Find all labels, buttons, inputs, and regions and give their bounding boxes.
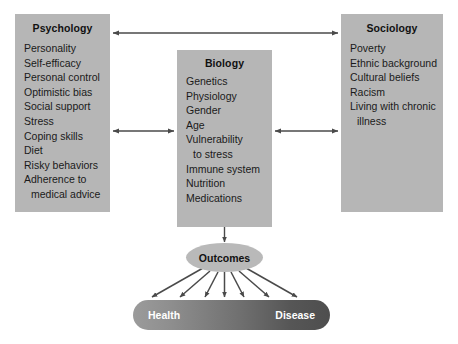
list-item: Adherence to bbox=[24, 172, 106, 187]
list-item: Self-efficacy bbox=[24, 56, 106, 71]
panel-sociology-list: Poverty Ethnic background Cultural belie… bbox=[350, 41, 439, 129]
list-item: Physiology bbox=[186, 89, 268, 104]
list-item: Racism bbox=[350, 85, 439, 100]
list-item: Optimistic bias bbox=[24, 85, 106, 100]
list-item: Living with chronic bbox=[350, 99, 439, 114]
list-item: Personality bbox=[24, 41, 106, 56]
arrow-fan-outcomes-continuum bbox=[152, 268, 297, 297]
list-item-continuation: illness bbox=[350, 114, 439, 129]
list-item: Diet bbox=[24, 143, 106, 158]
panel-sociology: Sociology Poverty Ethnic background Cult… bbox=[341, 14, 443, 212]
list-item: Age bbox=[186, 118, 268, 133]
list-item: Personal control bbox=[24, 70, 106, 85]
list-item-continuation: to stress bbox=[186, 147, 268, 162]
list-item: Risky behaviors bbox=[24, 158, 106, 173]
outcomes-node: Outcomes bbox=[186, 243, 263, 272]
continuum-label-disease: Disease bbox=[275, 309, 315, 321]
outcomes-label: Outcomes bbox=[199, 252, 250, 264]
panel-psychology-list: Personality Self-efficacy Personal contr… bbox=[24, 41, 106, 202]
list-item: Coping skills bbox=[24, 129, 106, 144]
list-item: Genetics bbox=[186, 74, 268, 89]
panel-psychology: Psychology Personality Self-efficacy Per… bbox=[15, 14, 110, 212]
list-item: Ethnic background bbox=[350, 56, 439, 71]
list-item: Immune system bbox=[186, 162, 268, 177]
list-item: Gender bbox=[186, 103, 268, 118]
list-item-continuation: medical advice bbox=[24, 187, 106, 202]
list-item: Vulnerability bbox=[186, 132, 268, 147]
list-item: Poverty bbox=[350, 41, 439, 56]
panel-biology: Biology Genetics Physiology Gender Age V… bbox=[177, 50, 272, 227]
panel-sociology-title: Sociology bbox=[341, 22, 443, 34]
list-item: Nutrition bbox=[186, 176, 268, 191]
list-item: Cultural beliefs bbox=[350, 70, 439, 85]
panel-psychology-title: Psychology bbox=[15, 22, 110, 34]
panel-biology-title: Biology bbox=[177, 57, 272, 69]
list-item: Social support bbox=[24, 99, 106, 114]
list-item: Medications bbox=[186, 191, 268, 206]
biopsychosocial-diagram: Psychology Personality Self-efficacy Per… bbox=[0, 0, 458, 344]
continuum-label-health: Health bbox=[148, 309, 180, 321]
health-disease-continuum-bar: Health Disease bbox=[133, 300, 330, 330]
list-item: Stress bbox=[24, 114, 106, 129]
panel-biology-list: Genetics Physiology Gender Age Vulnerabi… bbox=[186, 74, 268, 205]
